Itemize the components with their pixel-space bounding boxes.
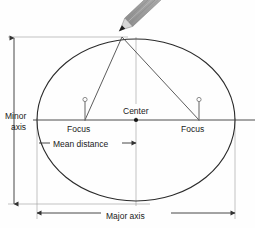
minor-axis-label-line1: Minor	[5, 111, 26, 121]
minor-axis-label-line2: axis	[11, 122, 26, 132]
focus-right-label: Focus	[181, 124, 204, 134]
focus-left-label: Focus	[67, 124, 90, 134]
mean-distance-label: Mean distance	[53, 139, 109, 149]
pencil-shaft	[125, 0, 197, 26]
pencil-icon	[115, 0, 197, 36]
diagram-canvas: Minor axis Major axis Center Focus Focus…	[0, 0, 255, 228]
string-to-left-focus	[85, 37, 122, 120]
major-axis-label: Major axis	[106, 211, 145, 221]
ellipse-diagram: Minor axis Major axis Center Focus Focus…	[0, 0, 255, 228]
center-point	[134, 118, 138, 122]
pin-head-right-icon	[197, 97, 201, 101]
focus-pin-right	[197, 97, 201, 121]
center-label: Center	[123, 106, 149, 116]
pin-head-left-icon	[83, 97, 87, 101]
